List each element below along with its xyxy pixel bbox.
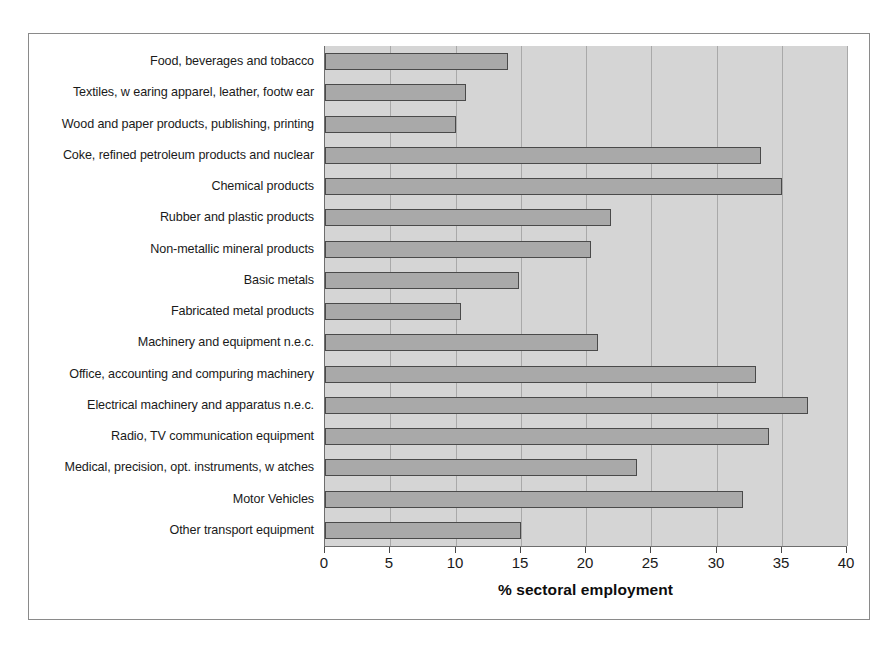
bar (325, 116, 456, 133)
gridline-25 (651, 46, 652, 546)
bar (325, 272, 519, 289)
tick-label-35: 35 (761, 555, 801, 570)
bar (325, 491, 743, 508)
bar (325, 366, 756, 383)
category-label: Textiles, w earing apparel, leather, foo… (29, 86, 314, 99)
gridline-40 (847, 46, 848, 546)
category-axis: Food, beverages and tobaccoTextiles, w e… (29, 46, 320, 546)
plot-area (324, 46, 847, 547)
tick-mark-40 (846, 547, 847, 553)
tick-mark-0 (324, 547, 325, 553)
x-axis-title: % sectoral employment (324, 581, 847, 599)
tick-label-5: 5 (369, 555, 409, 570)
bar (325, 241, 591, 258)
category-label: Coke, refined petroleum products and nuc… (29, 149, 314, 162)
tick-mark-15 (520, 547, 521, 553)
tick-mark-30 (716, 547, 717, 553)
category-label: Machinery and equipment n.e.c. (29, 336, 314, 349)
tick-label-15: 15 (500, 555, 540, 570)
bar (325, 53, 508, 70)
bar (325, 147, 761, 164)
category-label: Food, beverages and tobacco (29, 55, 314, 68)
category-label: Non-metallic mineral products (29, 243, 314, 256)
tick-label-0: 0 (304, 555, 344, 570)
bar (325, 334, 598, 351)
tick-label-10: 10 (435, 555, 475, 570)
bar (325, 178, 782, 195)
bar (325, 209, 611, 226)
category-label: Medical, precision, opt. instruments, w … (29, 461, 314, 474)
category-label: Radio, TV communication equipment (29, 430, 314, 443)
category-label: Other transport equipment (29, 524, 314, 537)
bar (325, 428, 769, 445)
value-axis: 0510152025303540 (324, 547, 847, 577)
bar (325, 459, 637, 476)
tick-label-40: 40 (826, 555, 866, 570)
bar-chart: Food, beverages and tobaccoTextiles, w e… (29, 34, 871, 621)
tick-mark-10 (455, 547, 456, 553)
tick-mark-20 (585, 547, 586, 553)
tick-label-25: 25 (630, 555, 670, 570)
bar (325, 84, 466, 101)
bar (325, 303, 461, 320)
category-label: Fabricated metal products (29, 305, 314, 318)
category-label: Office, accounting and compuring machine… (29, 368, 314, 381)
category-label: Rubber and plastic products (29, 211, 314, 224)
category-label: Wood and paper products, publishing, pri… (29, 118, 314, 131)
tick-mark-35 (781, 547, 782, 553)
gridline-30 (717, 46, 718, 546)
category-label: Basic metals (29, 274, 314, 287)
gridline-35 (782, 46, 783, 546)
tick-label-20: 20 (565, 555, 605, 570)
bar (325, 397, 808, 414)
tick-label-30: 30 (696, 555, 736, 570)
tick-mark-5 (389, 547, 390, 553)
category-label: Electrical machinery and apparatus n.e.c… (29, 399, 314, 412)
category-label: Motor Vehicles (29, 493, 314, 506)
bar (325, 522, 521, 539)
category-label: Chemical products (29, 180, 314, 193)
tick-mark-25 (650, 547, 651, 553)
figure-frame: Food, beverages and tobaccoTextiles, w e… (28, 33, 870, 620)
